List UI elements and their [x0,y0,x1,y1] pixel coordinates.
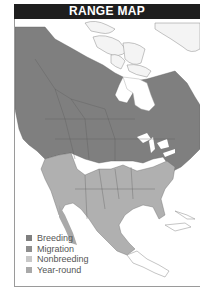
legend-label: Breeding [37,233,73,243]
legend-item-nonbreeding: Nonbreeding [26,254,89,265]
legend-item-year-round: Year-round [26,265,89,276]
central-america [127,211,195,277]
legend-item-breeding: Breeding [26,233,89,244]
swatch-breeding [26,235,32,241]
swatch-year-round [26,267,32,273]
legend-item-migration: Migration [26,244,89,255]
legend: Breeding Migration Nonbreeding Year-roun… [26,233,89,275]
legend-label: Year-round [37,265,81,275]
swatch-nonbreeding [26,256,32,262]
swatch-migration [26,246,32,252]
map-title: RANGE MAP [14,4,200,19]
legend-label: Nonbreeding [37,254,89,264]
legend-label: Migration [37,244,74,254]
